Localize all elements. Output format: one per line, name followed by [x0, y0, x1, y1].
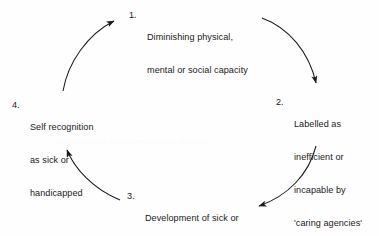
cycle-node-4-line-1: Self recognition — [30, 122, 93, 133]
cycle-node-3-text: Development of sick or dependent role; n… — [145, 191, 241, 236]
arrow-4-to-1 — [63, 21, 114, 91]
cycle-node-4: 4. Self recognition as sick or handicapp… — [12, 100, 93, 221]
cycle-node-2-number: 2. — [276, 97, 294, 108]
cycle-node-2: 2. Labelled as inefficient or incapable … — [276, 97, 362, 236]
cycle-node-3-number: 3. — [127, 191, 145, 202]
cycle-node-1-line-1: Diminishing physical, — [147, 32, 248, 43]
cycle-node-4-line-3: handicapped — [30, 188, 93, 199]
cycle-node-2-line-1: Labelled as — [294, 119, 362, 130]
cycle-node-2-text: Labelled as inefficient or incapable by … — [294, 97, 362, 236]
cycle-node-2-line-4: 'caring agencies' — [294, 218, 362, 229]
arrow-1-to-2 — [262, 18, 316, 83]
cycle-node-3-line-1: Development of sick or — [145, 213, 241, 224]
cycle-node-2-line-3: incapable by — [294, 185, 362, 196]
cycle-node-1-text: Diminishing physical, mental or social c… — [147, 10, 248, 98]
cycle-node-4-text: Self recognition as sick or handicapped — [30, 100, 93, 221]
cycle-node-4-number: 4. — [12, 100, 30, 111]
cycle-node-2-line-2: inefficient or — [294, 152, 362, 163]
cycle-node-4-line-2: as sick or — [30, 155, 93, 166]
cycle-node-1-line-2: mental or social capacity — [147, 65, 248, 76]
cycle-node-1: 1. Diminishing physical, mental or socia… — [129, 10, 248, 98]
cycle-node-3: 3. Development of sick or dependent role… — [127, 191, 241, 236]
diagram-page: show-through text from reverse of page 1… — [0, 0, 379, 236]
cycle-node-1-number: 1. — [129, 10, 147, 21]
